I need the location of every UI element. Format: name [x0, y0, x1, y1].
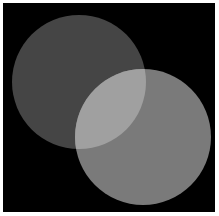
circles-graphic: [3, 3, 215, 212]
image-canvas: [3, 3, 215, 212]
